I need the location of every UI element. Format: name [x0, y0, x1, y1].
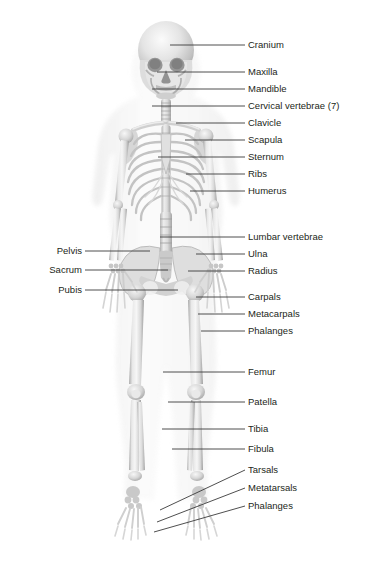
label-patella: Patella — [248, 396, 277, 407]
label-tarsals: Tarsals — [248, 464, 278, 475]
label-lumbar-vertebrae: Lumbar vertebrae — [248, 231, 323, 242]
label-sternum: Sternum — [248, 151, 284, 162]
label-maxilla: Maxilla — [248, 66, 278, 77]
label-femur: Femur — [248, 366, 275, 377]
label-phalanges: Phalanges — [248, 325, 293, 336]
label-clavicle: Clavicle — [248, 117, 281, 128]
pelvis — [119, 246, 213, 302]
label-cranium: Cranium — [248, 39, 284, 50]
label-sacrum: Sacrum — [0, 264, 82, 275]
label-mandible: Mandible — [248, 83, 287, 94]
label-radius: Radius — [248, 265, 278, 276]
label-tibia: Tibia — [248, 423, 268, 434]
label-ulna: Ulna — [248, 248, 268, 259]
label-scapula: Scapula — [248, 134, 282, 145]
label-phalanges: Phalanges — [248, 500, 293, 511]
label-pubis: Pubis — [0, 284, 82, 295]
label-ribs: Ribs — [248, 168, 267, 179]
lumbar-vertebrae — [160, 212, 172, 254]
skeleton-diagram: CraniumMaxillaMandibleCervical vertebrae… — [0, 0, 372, 562]
label-humerus: Humerus — [248, 185, 287, 196]
skeleton-illustration — [0, 0, 372, 562]
label-pelvis: Pelvis — [0, 245, 82, 256]
label-fibula: Fibula — [248, 443, 274, 454]
label-metacarpals: Metacarpals — [248, 308, 300, 319]
label-carpals: Carpals — [248, 291, 281, 302]
label-cervical-vertebrae-7: Cervical vertebrae (7) — [248, 100, 339, 111]
label-metatarsals: Metatarsals — [248, 482, 297, 493]
